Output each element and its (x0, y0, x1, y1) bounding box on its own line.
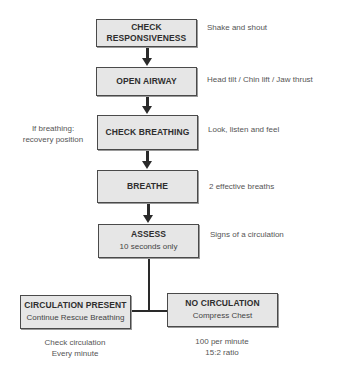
step-title: BREATHE (127, 181, 168, 192)
left-note-line: If breathing: (18, 124, 88, 135)
step-breathe: BREATHE (97, 170, 198, 203)
step-note: 2 effective breaths (209, 182, 274, 193)
step-note: Look, listen and feel (208, 125, 279, 136)
arrowhead-1-2 (142, 58, 152, 66)
step-check-responsiveness: CHECK RESPONSIVENESS (96, 19, 197, 47)
branch-note-line: 15:2 ratio (172, 348, 272, 359)
step-note: Signs of a circulation (210, 230, 284, 241)
step-subtitle: 10 seconds only (120, 241, 178, 253)
step-title: CHECK (131, 22, 162, 33)
step-title: OPEN AIRWAY (116, 76, 176, 87)
left-note: If breathing: recovery position (18, 124, 88, 145)
branch-note-line: 100 per minute (172, 337, 272, 348)
branch-note-line: Check circulation (25, 338, 125, 349)
arrowhead-3-4 (142, 161, 152, 169)
branch-circulation-present: CIRCULATION PRESENT Continue Rescue Brea… (20, 295, 131, 329)
step-check-breathing: CHECK BREATHING (97, 115, 198, 150)
branch-note-line: Every minute (25, 349, 125, 360)
step-note: Head tilt / Chin lift / Jaw thrust (207, 75, 313, 86)
branch-note: Check circulation Every minute (25, 338, 125, 359)
branch-subtitle: Continue Rescue Breathing (27, 312, 125, 324)
step-assess: ASSESS 10 seconds only (98, 224, 199, 258)
branch-title: CIRCULATION PRESENT (24, 300, 126, 311)
step-note: Shake and shout (207, 23, 267, 34)
arrowhead-4-5 (143, 215, 153, 223)
branch-subtitle: Compress Chest (193, 310, 253, 322)
arrowhead-2-3 (142, 106, 152, 114)
branch-no-circulation: NO CIRCULATION Compress Chest (167, 293, 278, 327)
left-note-line: recovery position (18, 135, 88, 146)
connector-branch-horizontal (131, 310, 168, 312)
step-open-airway: OPEN AIRWAY (96, 67, 197, 96)
branch-note: 100 per minute 15:2 ratio (172, 337, 272, 358)
connector-5-branch (148, 258, 150, 311)
step-title: ASSESS (131, 229, 166, 240)
step-title: RESPONSIVENESS (107, 33, 187, 44)
branch-title: NO CIRCULATION (185, 298, 259, 309)
step-title: CHECK BREATHING (106, 127, 190, 138)
